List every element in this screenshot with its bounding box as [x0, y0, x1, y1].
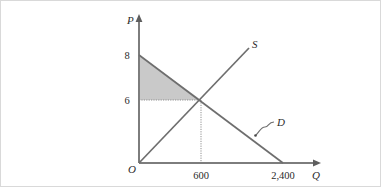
screenshot-root: P Q O 8 6 600 2,400 S D	[0, 0, 383, 189]
y-axis-label: P	[126, 14, 134, 26]
x-axis-label: Q	[312, 169, 320, 181]
y-tick-label-6: 6	[124, 95, 129, 106]
supply-curve-label: S	[252, 38, 258, 50]
demand-curve	[139, 55, 283, 163]
demand-leader-line	[256, 122, 274, 135]
supply-curve	[139, 48, 249, 163]
demand-curve-label: D	[276, 116, 285, 128]
x-axis-arrow-icon	[313, 160, 321, 167]
y-axis-arrow-icon	[136, 14, 143, 22]
supply-demand-diagram: P Q O 8 6 600 2,400 S D	[0, 0, 383, 189]
x-tick-label-2400: 2,400	[271, 170, 295, 181]
x-tick-label-600: 600	[193, 170, 209, 181]
demand-leader-anchor-dot	[254, 134, 257, 137]
y-tick-label-8: 8	[124, 50, 129, 61]
origin-label: O	[128, 163, 136, 175]
